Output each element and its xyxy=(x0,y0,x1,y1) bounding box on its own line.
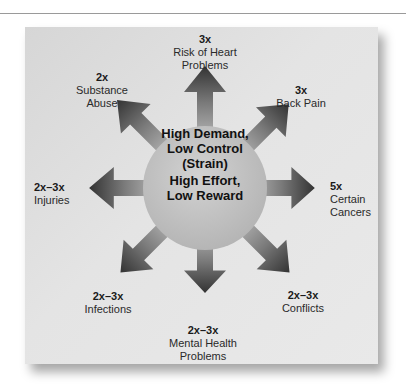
multiplier: 3x xyxy=(266,84,336,97)
outcome-back-pain: 3x Back Pain xyxy=(266,84,336,110)
outcome-label: Cancers xyxy=(330,206,371,219)
outcome-label: Risk of Heart xyxy=(160,46,250,59)
outcome-label: Certain xyxy=(330,193,371,206)
center-line: Low Control xyxy=(143,141,267,156)
center-line: Low Reward xyxy=(143,188,267,203)
center-line: High Demand, xyxy=(143,126,267,141)
center-line: (Strain) xyxy=(143,156,267,171)
outcome-substance-abuse: 2x Substance Abuse xyxy=(72,71,132,110)
multiplier: 2x–3x xyxy=(34,181,69,194)
center-line: High Effort, xyxy=(143,173,267,188)
outcome-injuries: 2x–3x Injuries xyxy=(34,181,69,207)
outcome-label: Abuse xyxy=(72,97,132,110)
outcome-label: Back Pain xyxy=(266,97,336,110)
center-stressor-label: High Demand, Low Control (Strain) High E… xyxy=(143,126,267,203)
outcome-mental-health: 2x–3x Mental Health Problems xyxy=(158,324,248,363)
outcome-heart: 3x Risk of Heart Problems xyxy=(160,33,250,72)
outcome-cancers: 5x Certain Cancers xyxy=(330,180,371,219)
multiplier: 2x xyxy=(72,71,132,84)
multiplier: 2x–3x xyxy=(73,290,143,303)
multiplier: 2x–3x xyxy=(158,324,248,337)
outcome-label: Problems xyxy=(158,350,248,363)
outcome-label: Conflicts xyxy=(268,302,338,315)
outcome-label: Mental Health xyxy=(158,337,248,350)
multiplier: 5x xyxy=(330,180,371,193)
outcome-conflicts: 2x–3x Conflicts xyxy=(268,289,338,315)
multiplier: 2x–3x xyxy=(268,289,338,302)
outcome-label: Substance xyxy=(72,84,132,97)
outcome-label: Infections xyxy=(73,303,143,316)
outcome-infections: 2x–3x Infections xyxy=(73,290,143,316)
multiplier: 3x xyxy=(160,33,250,46)
outcome-label: Injuries xyxy=(34,194,69,207)
outcome-label: Problems xyxy=(160,59,250,72)
